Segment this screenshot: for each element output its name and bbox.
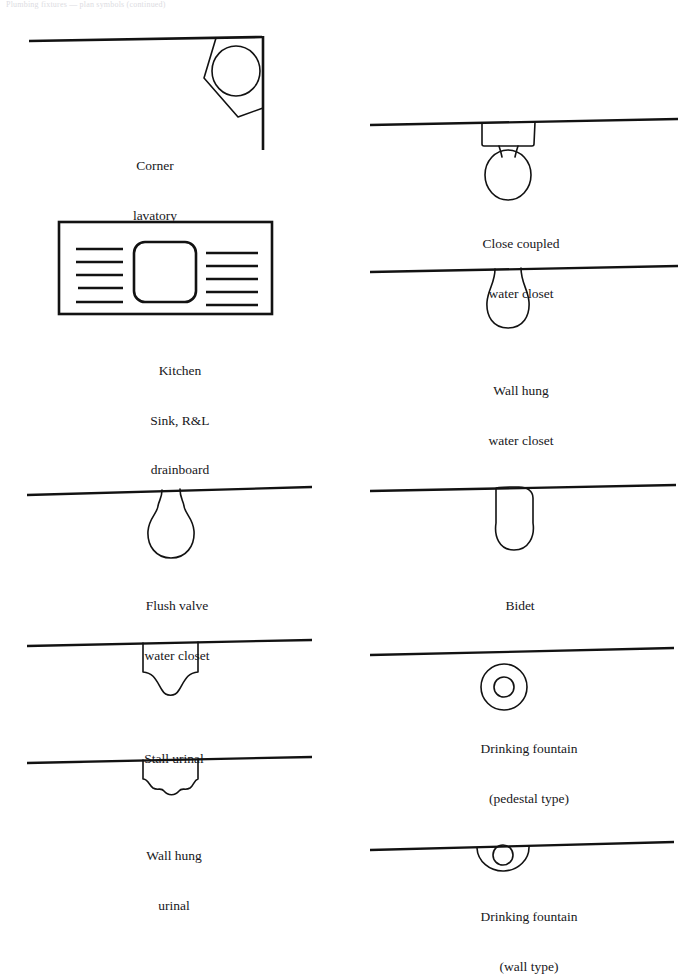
- wall-hung-water-closet-symbol: [368, 258, 680, 344]
- closet-bowl-flushvalve: [148, 489, 194, 558]
- bidet-symbol: [368, 478, 680, 564]
- figure-wall-hung-urinal: [22, 743, 342, 823]
- caption-line: Corner: [75, 158, 235, 175]
- caption-line: (pedestal type): [434, 791, 624, 808]
- caption-line: Drinking fountain: [434, 741, 624, 758]
- fountain-inner-circle: [494, 677, 514, 697]
- figure-wall-hung-water-closet: [368, 258, 680, 344]
- stall-urinal-symbol: [22, 628, 342, 708]
- closet-tank: [482, 122, 535, 146]
- wall-line: [370, 266, 678, 272]
- caption-line: Drinking fountain: [434, 909, 624, 926]
- wall-line: [370, 119, 678, 125]
- lavatory-bowl-circle: [212, 46, 260, 96]
- figure-flush-valve-water-closet: [22, 478, 342, 570]
- sink-outline: [59, 222, 272, 314]
- closet-bowl: [485, 150, 531, 200]
- fountain-inner-circle: [493, 845, 513, 865]
- caption-line: Flush valve: [92, 598, 262, 615]
- caption-line: water closet: [428, 433, 614, 450]
- figure-drinking-fountain-wall: [368, 812, 680, 882]
- caption-line: urinal: [98, 898, 250, 915]
- caption-line: drainboard: [110, 462, 250, 479]
- caption-line: Wall hung: [98, 848, 250, 865]
- caption-line: Kitchen: [110, 363, 250, 380]
- wall-hung-urinal-body: [143, 759, 198, 795]
- figure-close-coupled-water-closet: [368, 112, 680, 202]
- caption-line: Bidet: [470, 598, 570, 615]
- wall-line: [370, 648, 674, 655]
- figure-stall-urinal: [22, 628, 342, 708]
- caption-drinking-fountain-wall: Drinking fountain (wall type): [434, 876, 624, 978]
- flush-valve-water-closet-symbol: [22, 478, 342, 570]
- figure-drinking-fountain-pedestal: [368, 615, 680, 695]
- caption-line: Wall hung: [428, 383, 614, 400]
- page-header-text: Plumbing fixtures — plan symbols (contin…: [6, 0, 426, 12]
- wall-line: [27, 640, 312, 646]
- wall-line: [27, 487, 312, 495]
- bidet-body: [496, 487, 534, 550]
- drinking-fountain-wall-symbol: [368, 812, 680, 882]
- sink-basin: [134, 242, 196, 302]
- stall-urinal-body: [143, 642, 198, 695]
- close-coupled-water-closet-symbol: [368, 112, 680, 202]
- caption-wall-hung-water-closet: Wall hung water closet: [428, 350, 614, 482]
- caption-wall-hung-urinal: Wall hung urinal: [98, 815, 250, 947]
- figure-kitchen-sink: [55, 218, 285, 320]
- fountain-semicircle: [477, 846, 529, 871]
- wall-line-horizontal: [29, 37, 262, 41]
- wall-line: [370, 842, 674, 850]
- caption-line: Sink, R&L: [110, 413, 250, 430]
- fountain-outer-circle: [481, 664, 527, 710]
- caption-line: (wall type): [434, 959, 624, 976]
- wall-hung-urinal-symbol: [22, 743, 342, 823]
- wall-line: [27, 757, 312, 763]
- drinking-fountain-pedestal-symbol: [368, 615, 680, 695]
- caption-line: Close coupled: [426, 236, 616, 253]
- closet-bowl-pear: [487, 268, 529, 328]
- figure-bidet: [368, 478, 680, 564]
- kitchen-sink-symbol: [55, 218, 285, 320]
